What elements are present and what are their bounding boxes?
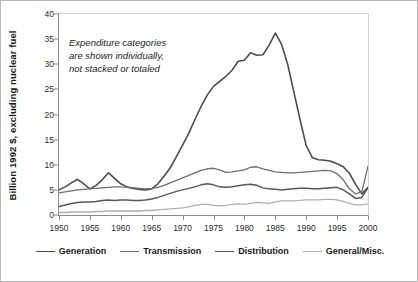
annotation-line-3: not stacked or totaled [69,63,166,76]
y-axis-title-text: Billion 1992 $, excluding nuclear fuel [7,30,18,200]
legend-label: Transmission [143,246,201,256]
y-tick-label: 25 [28,84,54,94]
series-line-general-misc [59,199,368,212]
x-tick-mark [337,216,338,220]
chart-legend: GenerationTransmissionDistributionGenera… [1,246,418,256]
legend-item-distribution[interactable]: Distribution [215,246,289,256]
y-tick-label: 20 [28,110,54,120]
x-tick-mark [59,216,60,220]
y-axis-title: Billion 1992 $, excluding nuclear fuel [1,1,23,229]
y-tick-label: 0 [28,210,54,220]
legend-swatch-icon [303,251,322,252]
legend-swatch-icon [36,251,55,252]
x-tick-mark [214,216,215,220]
legend-swatch-icon [215,251,234,252]
x-tick-mark [368,216,369,220]
annotation-line-2: are shown individually, [69,50,166,63]
chart-annotation: Expenditure categories are shown individ… [69,37,166,75]
x-tick-label: 2000 [348,223,388,233]
legend-item-general-misc[interactable]: General/Misc. [303,246,385,256]
y-tick-label: 35 [28,34,54,44]
y-axis-ticks: 0510152025303540 [23,13,54,216]
annotation-line-1: Expenditure categories [69,37,166,50]
x-tick-mark [90,216,91,220]
y-tick-label: 40 [28,9,54,19]
chart-figure: Billion 1992 $, excluding nuclear fuel 0… [0,0,418,282]
legend-item-transmission[interactable]: Transmission [120,246,201,256]
x-tick-mark [152,216,153,220]
x-tick-mark [306,216,307,220]
y-tick-label: 10 [28,160,54,170]
legend-swatch-icon [120,251,139,252]
legend-item-generation[interactable]: Generation [36,246,107,256]
series-line-transmission [59,166,368,194]
legend-label: General/Misc. [326,246,385,256]
x-axis-ticks: 1950195519601965197019751980198519901995… [58,216,369,238]
legend-label: Generation [59,246,107,256]
x-tick-mark [244,216,245,220]
y-tick-label: 15 [28,135,54,145]
y-tick-label: 30 [28,59,54,69]
x-tick-mark [121,216,122,220]
x-tick-mark [183,216,184,220]
x-tick-mark [275,216,276,220]
legend-label: Distribution [238,246,289,256]
y-tick-label: 5 [28,185,54,195]
